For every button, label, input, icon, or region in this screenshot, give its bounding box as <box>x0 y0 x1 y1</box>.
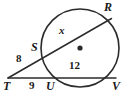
geometry-figure: R S T U V 8 9 12 x <box>0 0 127 98</box>
point-label-v: V <box>112 80 120 92</box>
point-label-u: U <box>46 80 55 92</box>
point-label-t: T <box>3 80 10 92</box>
point-label-s: S <box>31 41 38 53</box>
figure-canvas <box>0 0 127 98</box>
measure-label-uv: 12 <box>69 60 80 71</box>
measure-label-tu: 9 <box>29 80 35 91</box>
point-label-r: R <box>104 1 112 13</box>
circle-center-dot <box>77 45 82 50</box>
measure-label-ts: 8 <box>16 53 22 64</box>
measure-label-sr-variable: x <box>59 25 65 36</box>
